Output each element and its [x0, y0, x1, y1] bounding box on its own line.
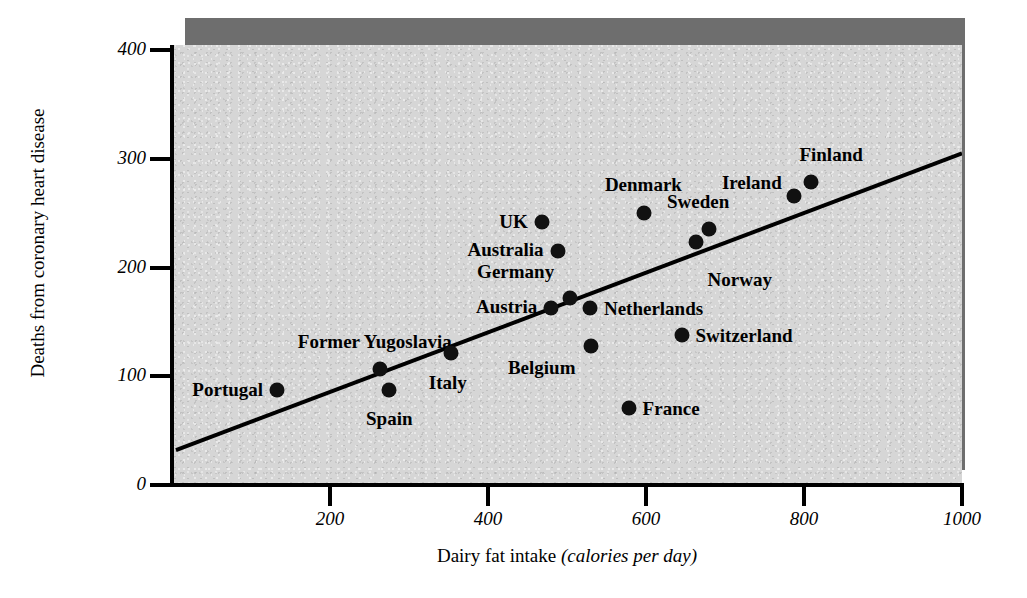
- y-tick-label: 400: [118, 38, 147, 60]
- data-point-marker: [443, 346, 458, 361]
- x-tick-label: 600: [632, 508, 661, 530]
- y-tick-label: 300: [118, 147, 147, 169]
- data-point-label: Austria: [476, 296, 537, 318]
- y-axis-title: Deaths from coronary heart disease: [27, 93, 49, 393]
- data-point-label: Italy: [429, 372, 467, 394]
- x-tick-label: 1000: [943, 508, 981, 530]
- data-point-marker: [804, 174, 819, 189]
- x-tick-mark: [960, 486, 964, 506]
- data-point-label: Belgium: [508, 357, 576, 379]
- scatter-chart-figure: 0100200300400 2004006008001000 PortugalF…: [0, 0, 1027, 598]
- data-point-marker: [637, 206, 652, 221]
- data-point-marker: [382, 383, 397, 398]
- data-point-label: Switzerland: [696, 325, 793, 347]
- y-tick-mark: [150, 483, 172, 487]
- y-tick-label: 200: [118, 256, 147, 278]
- y-tick-mark: [150, 266, 172, 270]
- data-point-label: France: [643, 398, 700, 420]
- data-point-marker: [621, 400, 636, 415]
- x-tick-mark: [486, 486, 490, 506]
- data-point-label: Finland: [799, 144, 862, 166]
- data-point-label: Sweden: [667, 191, 729, 213]
- plot-area-texture: [172, 45, 962, 485]
- data-point-marker: [544, 300, 559, 315]
- x-tick-label: 400: [474, 508, 503, 530]
- x-axis-title-units: (calories per day): [561, 545, 697, 566]
- data-point-label: Portugal: [192, 379, 263, 401]
- y-tick-mark: [150, 157, 172, 161]
- data-point-marker: [534, 214, 549, 229]
- data-point-marker: [270, 383, 285, 398]
- x-tick-mark: [802, 486, 806, 506]
- data-point-label: Spain: [366, 408, 412, 430]
- data-point-marker: [550, 244, 565, 259]
- plot-area: [172, 45, 962, 485]
- data-point-label: Former Yugoslavia: [298, 331, 452, 353]
- y-tick-mark: [150, 374, 172, 378]
- data-point-marker: [786, 188, 801, 203]
- x-tick-mark: [644, 486, 648, 506]
- x-tick-label: 200: [316, 508, 345, 530]
- data-point-label: Australia: [468, 239, 544, 261]
- x-axis-title-text: Dairy fat intake: [437, 545, 556, 566]
- data-point-marker: [372, 361, 387, 376]
- x-tick-mark: [328, 486, 332, 506]
- y-tick-label: 100: [118, 364, 147, 386]
- data-point-marker: [702, 222, 717, 237]
- data-point-label: UK: [499, 211, 528, 233]
- data-point-label: Ireland: [722, 172, 782, 194]
- data-point-label: Netherlands: [604, 298, 703, 320]
- data-point-marker: [584, 338, 599, 353]
- data-point-marker: [563, 290, 578, 305]
- y-tick-mark: [150, 48, 172, 52]
- y-tick-label: 0: [137, 473, 147, 495]
- x-tick-label: 800: [790, 508, 819, 530]
- x-axis-title: Dairy fat intake (calories per day): [172, 545, 962, 567]
- data-point-marker: [688, 235, 703, 250]
- data-point-marker: [582, 300, 597, 315]
- data-point-marker: [674, 327, 689, 342]
- x-axis-line: [170, 483, 964, 487]
- data-point-label: Germany: [477, 261, 554, 283]
- data-point-label: Norway: [708, 269, 772, 291]
